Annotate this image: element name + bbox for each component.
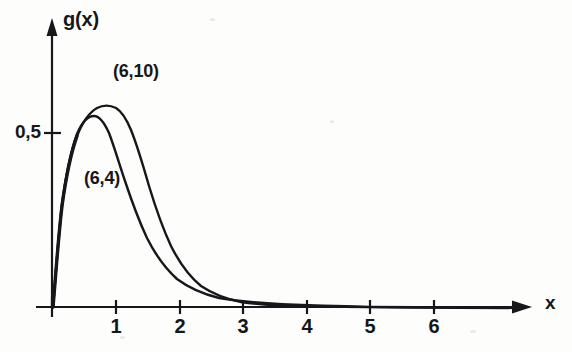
shared-rising-limb bbox=[53, 136, 77, 307]
y-tick-label-0: 0,5 bbox=[15, 121, 41, 143]
x-tick-label-6: 6 bbox=[429, 315, 440, 338]
curve-label-6-10: (6,10) bbox=[113, 61, 159, 82]
x-tick-label-4: 4 bbox=[302, 315, 313, 338]
curve-6-10 bbox=[53, 106, 516, 308]
x-axis-label: x bbox=[545, 292, 555, 314]
x-tick-label-3: 3 bbox=[238, 315, 249, 338]
curve-label-6-4: (6,4) bbox=[84, 168, 120, 189]
y-axis-label: g(x) bbox=[63, 8, 99, 31]
scan-speck bbox=[210, 18, 215, 21]
scan-speck bbox=[120, 336, 125, 339]
x-tick-label-2: 2 bbox=[175, 315, 186, 338]
x-tick-label-1: 1 bbox=[111, 315, 122, 338]
scan-speck bbox=[470, 330, 476, 333]
x-tick-label-5: 5 bbox=[365, 315, 376, 338]
scan-speck bbox=[330, 120, 334, 123]
curve-6-4 bbox=[53, 116, 516, 308]
figure-container: g(x) x 0,5 1 2 3 4 5 6 (6,10) (6,4) bbox=[0, 0, 572, 352]
